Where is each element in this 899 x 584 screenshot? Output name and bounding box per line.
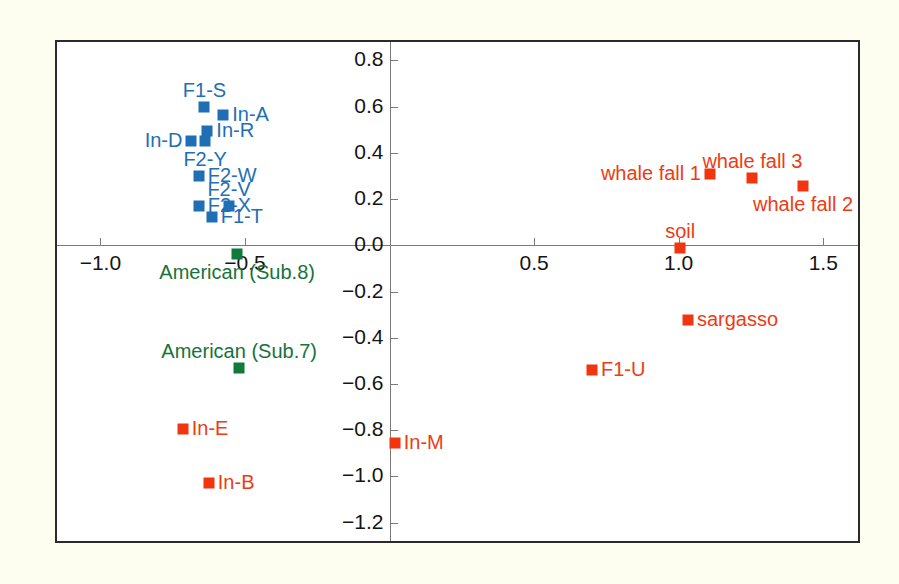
y-tick — [391, 292, 398, 293]
data-point-label: whale fall 2 — [753, 193, 853, 216]
data-point-label: F2-V — [207, 178, 250, 201]
y-tick-label: −0.2 — [326, 279, 384, 303]
y-tick-label: 0.4 — [326, 140, 384, 164]
data-point-marker — [200, 136, 211, 147]
data-point-marker — [232, 249, 243, 260]
x-tick — [245, 238, 246, 245]
y-tick-label: 0.0 — [326, 232, 384, 256]
y-tick — [391, 384, 398, 385]
data-point-marker — [682, 315, 693, 326]
y-tick-label: 0.2 — [326, 186, 384, 210]
data-point-label: soil — [665, 220, 695, 243]
data-point-marker — [193, 170, 204, 181]
x-tick — [534, 238, 535, 245]
y-tick — [391, 199, 398, 200]
y-tick — [391, 60, 398, 61]
x-tick — [823, 238, 824, 245]
x-tick-label: 0.5 — [520, 251, 549, 275]
y-tick — [391, 338, 398, 339]
data-point-label: In-D — [145, 129, 183, 152]
y-tick — [391, 107, 398, 108]
data-point-marker — [747, 172, 758, 183]
data-point-label: In-R — [216, 119, 254, 142]
y-tick-label: 0.8 — [326, 47, 384, 71]
data-point-marker — [389, 437, 400, 448]
y-tick — [391, 476, 398, 477]
data-point-label: F1-S — [183, 79, 226, 102]
data-point-marker — [234, 362, 245, 373]
data-point-marker — [199, 101, 210, 112]
data-point-marker — [203, 478, 214, 489]
x-tick-label: −1.0 — [80, 251, 121, 275]
data-point-marker — [193, 201, 204, 212]
y-tick — [391, 523, 398, 524]
data-point-label: whale fall 3 — [702, 150, 802, 173]
data-point-marker — [586, 365, 597, 376]
data-point-label: American (Sub.8) — [159, 261, 315, 284]
data-point-label: F1-U — [601, 358, 645, 381]
data-point-label: F1-T — [221, 205, 263, 228]
data-point-label: whale fall 1 — [601, 162, 701, 185]
y-tick — [391, 153, 398, 154]
data-point-label: American (Sub.7) — [161, 340, 317, 363]
y-tick — [391, 430, 398, 431]
x-tick — [100, 238, 101, 245]
y-tick-label: −0.6 — [326, 371, 384, 395]
data-point-marker — [206, 212, 217, 223]
data-point-label: sargasso — [697, 308, 778, 331]
y-tick-label: −0.4 — [326, 325, 384, 349]
plot-frame: −1.0−0.50.51.01.5 0.80.60.40.20.0−0.2−0.… — [55, 40, 860, 543]
x-axis-line — [57, 245, 858, 246]
data-point-label: In-M — [404, 431, 444, 454]
y-tick-label: −1.2 — [326, 510, 384, 534]
data-point-marker — [186, 135, 197, 146]
data-point-label: In-B — [218, 471, 255, 494]
data-point-marker — [798, 181, 809, 192]
x-tick-label: 1.5 — [809, 251, 838, 275]
data-point-marker — [177, 423, 188, 434]
data-point-marker — [675, 242, 686, 253]
y-tick-label: 0.6 — [326, 94, 384, 118]
x-tick-label: 1.0 — [664, 251, 693, 275]
y-tick-label: −0.8 — [326, 417, 384, 441]
data-point-label: In-E — [192, 417, 229, 440]
figure-root: −1.0−0.50.51.01.5 0.80.60.40.20.0−0.2−0.… — [0, 0, 899, 584]
y-tick-label: −1.0 — [326, 463, 384, 487]
